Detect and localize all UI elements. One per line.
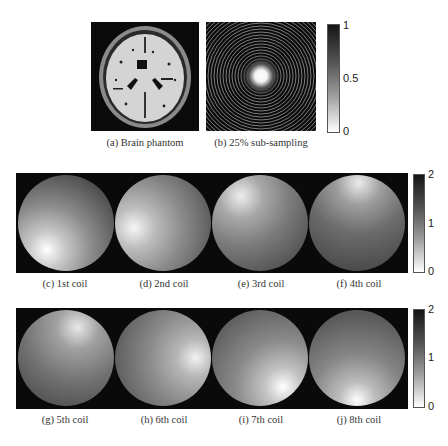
colorbar-row-1-max: 2 (428, 169, 434, 180)
coil-row-2-strip (16, 308, 408, 409)
coil-2-image (115, 175, 211, 271)
coil-7-image (212, 310, 308, 406)
coil-8-image (309, 310, 405, 406)
colorbar-row-2-max: 2 (428, 304, 434, 315)
brain-phantom-image (91, 22, 199, 131)
caption-d: (d) 2nd coil (115, 278, 213, 289)
colorbar-top (327, 24, 340, 133)
coil-6-image (115, 310, 211, 406)
colorbar-row-2-mid: 1 (428, 352, 434, 363)
colorbar-top-min: 0 (343, 126, 349, 137)
coil-4-image (309, 175, 405, 271)
colorbar-row-2 (413, 309, 425, 408)
subsampling-mask-image (206, 22, 316, 131)
colorbar-top-mid: 0.5 (343, 73, 358, 84)
caption-j: (j) 8th coil (310, 414, 408, 425)
colorbar-row-1 (413, 174, 425, 273)
caption-f: (f) 4th coil (310, 278, 408, 289)
coil-3-image (212, 175, 308, 271)
colorbar-top-max: 1 (343, 20, 349, 31)
caption-i: (i) 7th coil (212, 414, 310, 425)
coil-row-1-strip (16, 173, 408, 273)
caption-c: (c) 1st coil (16, 278, 114, 289)
colorbar-row-2-min: 0 (428, 401, 434, 412)
caption-b: (b) 25% sub-sampling (200, 137, 322, 148)
colorbar-row-1-min: 0 (428, 266, 434, 277)
caption-g: (g) 5th coil (16, 414, 114, 425)
caption-a: (a) Brain phantom (91, 137, 199, 148)
caption-e: (e) 3rd coil (212, 278, 310, 289)
coil-5-image (18, 310, 114, 406)
coil-1-image (18, 175, 114, 271)
colorbar-row-1-mid: 1 (428, 218, 434, 229)
caption-h: (h) 6th coil (115, 414, 213, 425)
